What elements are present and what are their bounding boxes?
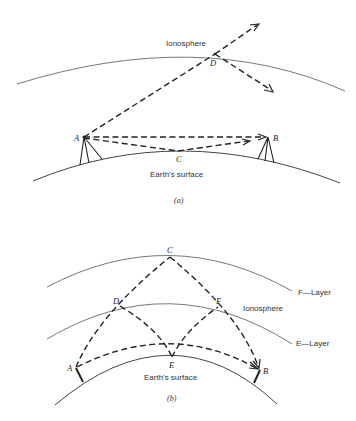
ground-reflected-ray-c-to-b bbox=[178, 141, 248, 151]
arrowhead-down-icon bbox=[264, 84, 273, 92]
antenna-b-stub-icon bbox=[254, 370, 260, 383]
diagram-b: C D F E A B F—Layer Ionosphere E—Layer E… bbox=[47, 245, 331, 405]
ionospheric-propagation-figure: Ionosphere D A B C Earth's surface (a) C… bbox=[0, 0, 356, 421]
ionosphere-label-a: Ionosphere bbox=[166, 39, 207, 48]
sky-wave-ray-a-to-d bbox=[84, 54, 215, 137]
f-layer-label: F—Layer bbox=[298, 288, 331, 297]
antenna-a-icon bbox=[80, 137, 102, 165]
caption-a: (a) bbox=[174, 196, 184, 205]
point-a-dot bbox=[83, 136, 86, 139]
earth-surface-label-b: Earth's surface bbox=[144, 373, 198, 382]
point-d-label: D bbox=[209, 58, 217, 68]
e-layer-label: E—Layer bbox=[296, 339, 330, 348]
ionosphere-label-b: Ionosphere bbox=[243, 304, 284, 313]
point-e-label-b: E bbox=[168, 360, 175, 370]
ray-a-to-c bbox=[76, 257, 170, 367]
earth-surface-label-a: Earth's surface bbox=[150, 170, 204, 179]
point-b-label: B bbox=[273, 133, 278, 143]
reflected-ray-d-down bbox=[215, 54, 271, 90]
ionosphere-arc-a bbox=[17, 57, 345, 91]
point-c-label: C bbox=[176, 154, 182, 164]
escaping-ray-d-up bbox=[215, 25, 257, 54]
ray-d-to-e bbox=[120, 306, 172, 357]
point-d-dot bbox=[214, 53, 217, 56]
caption-b: (b) bbox=[167, 394, 177, 403]
point-a-label-b: A bbox=[66, 363, 73, 373]
point-b-label-b: B bbox=[263, 366, 268, 376]
point-a-label: A bbox=[73, 133, 80, 143]
point-d-label-b: D bbox=[112, 296, 120, 306]
antenna-a-stub-icon bbox=[76, 368, 83, 382]
diagram-a: Ionosphere D A B C Earth's surface (a) bbox=[17, 24, 345, 205]
f-layer-arc bbox=[47, 255, 292, 291]
ground-reflected-ray-a-to-c bbox=[84, 138, 178, 151]
point-f-label-b: F bbox=[215, 296, 222, 306]
arrowhead-reflected-icon bbox=[242, 139, 250, 145]
point-c-label-b: C bbox=[167, 245, 173, 255]
